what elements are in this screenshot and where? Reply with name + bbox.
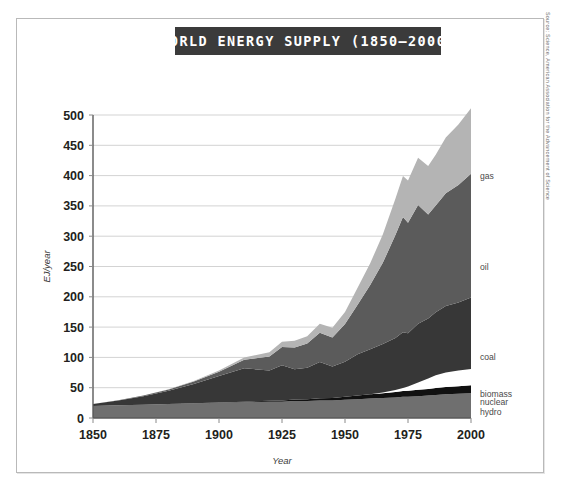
x-tick-label: 1975 xyxy=(394,428,422,442)
x-axis-ticks: 1850187519001925195019752000 xyxy=(79,418,485,442)
series-label-coal: coal xyxy=(480,352,496,362)
y-tick-label: 100 xyxy=(63,351,84,365)
series-label-oil: oil xyxy=(480,262,489,272)
x-tick-label: 1875 xyxy=(142,428,170,442)
x-tick-label: 1925 xyxy=(268,428,296,442)
y-tick-label: 50 xyxy=(70,381,84,395)
y-tick-label: 450 xyxy=(63,139,84,153)
series-labels: biomasshydronuclearcoaloilgas xyxy=(480,171,512,417)
x-tick-label: 2000 xyxy=(457,428,485,442)
x-axis-label: Year xyxy=(272,455,292,466)
y-tick-label: 350 xyxy=(63,199,84,213)
x-tick-label: 1850 xyxy=(79,428,107,442)
y-tick-label: 250 xyxy=(63,260,84,274)
x-tick-label: 1900 xyxy=(205,428,233,442)
y-tick-label: 400 xyxy=(63,169,84,183)
source-credit: Source: Science, American Association fo… xyxy=(545,12,551,200)
y-tick-label: 300 xyxy=(63,230,84,244)
y-axis-label: EJ/year xyxy=(41,250,52,283)
x-tick-label: 1950 xyxy=(331,428,359,442)
series-label-nuclear: nuclear xyxy=(480,397,508,407)
y-tick-label: 500 xyxy=(63,109,84,123)
y-axis-ticks: 050100150200250300350400450500 xyxy=(63,109,93,426)
series-label-hydro: hydro xyxy=(480,407,502,417)
stacked-area-chart: 050100150200250300350400450500 185018751… xyxy=(16,18,544,473)
y-tick-label: 0 xyxy=(77,412,84,426)
energy-supply-figure: WORLD ENERGY SUPPLY (1850–2000) 05010015… xyxy=(0,0,576,493)
area-series-group xyxy=(93,108,471,418)
chart-canvas: 050100150200250300350400450500 185018751… xyxy=(16,18,544,473)
y-tick-label: 200 xyxy=(63,290,84,304)
series-label-gas: gas xyxy=(480,171,494,181)
y-tick-label: 150 xyxy=(63,321,84,335)
